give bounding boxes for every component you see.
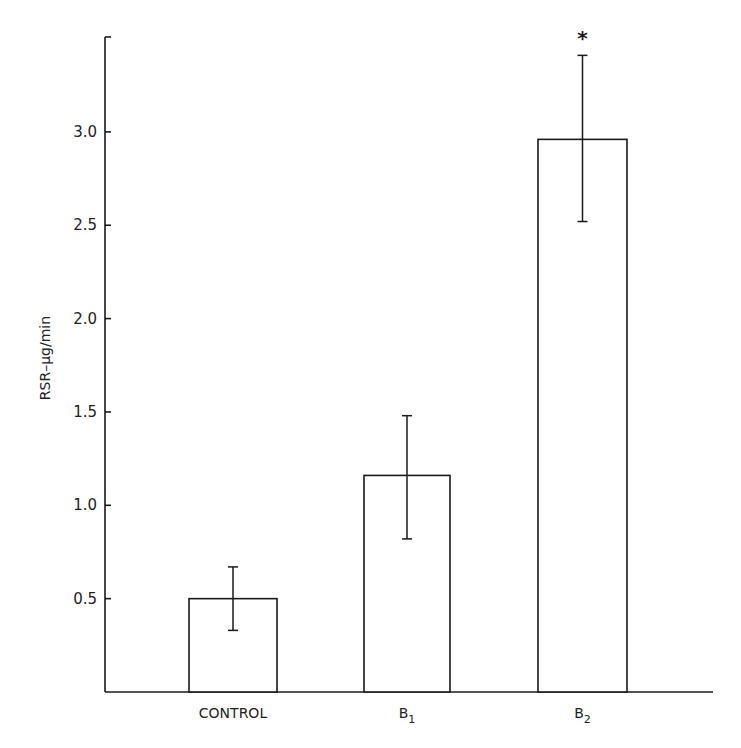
bars-group: *: [189, 26, 627, 692]
y-axis-label: RSR–μg/min: [37, 316, 53, 400]
bar-b1: [364, 416, 450, 692]
y-tick-label: 0.5: [73, 590, 97, 608]
y-tick-label: 3.0: [73, 123, 97, 141]
y-tick-label: 1.5: [73, 403, 97, 421]
labels-group: CONTROLB1B2: [199, 705, 591, 726]
significance-asterisk: *: [577, 26, 588, 50]
y-tick-label: 2.5: [73, 216, 97, 234]
x-category-label: B2: [574, 705, 591, 726]
y-tick-label: 2.0: [73, 310, 97, 328]
x-category-label: B1: [399, 705, 416, 726]
y-axis: 0.51.01.52.02.53.0: [73, 37, 111, 692]
bar-chart: 0.51.01.52.02.53.0 * CONTROLB1B2 RSR–μg/…: [0, 0, 741, 748]
bar-control: [189, 567, 277, 692]
x-category-label: CONTROL: [199, 705, 268, 721]
bar-b2: *: [538, 26, 627, 692]
y-tick-label: 1.0: [73, 496, 97, 514]
